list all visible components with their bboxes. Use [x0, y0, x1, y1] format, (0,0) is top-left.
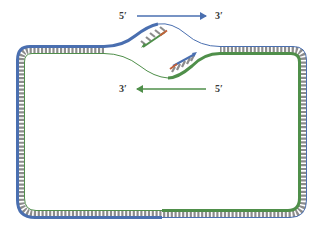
- top-3prime-label: 3′: [215, 11, 223, 21]
- green-strand-inner-left: [25, 54, 163, 211]
- green-strand-inner-right: [162, 54, 300, 211]
- bottom-5prime-label: 5′: [215, 84, 223, 94]
- dna-rungs: [21, 50, 303, 214]
- blue-strand-outer: [18, 47, 163, 218]
- lower-primer: [170, 52, 197, 72]
- top-5prime-label: 5′: [119, 11, 127, 21]
- bottom-3prime-label: 3′: [119, 84, 127, 94]
- dna-diagram: [0, 0, 326, 236]
- bubble-lower-green-thin: [104, 54, 168, 79]
- bubble-upper-blue-thin: [158, 24, 220, 47]
